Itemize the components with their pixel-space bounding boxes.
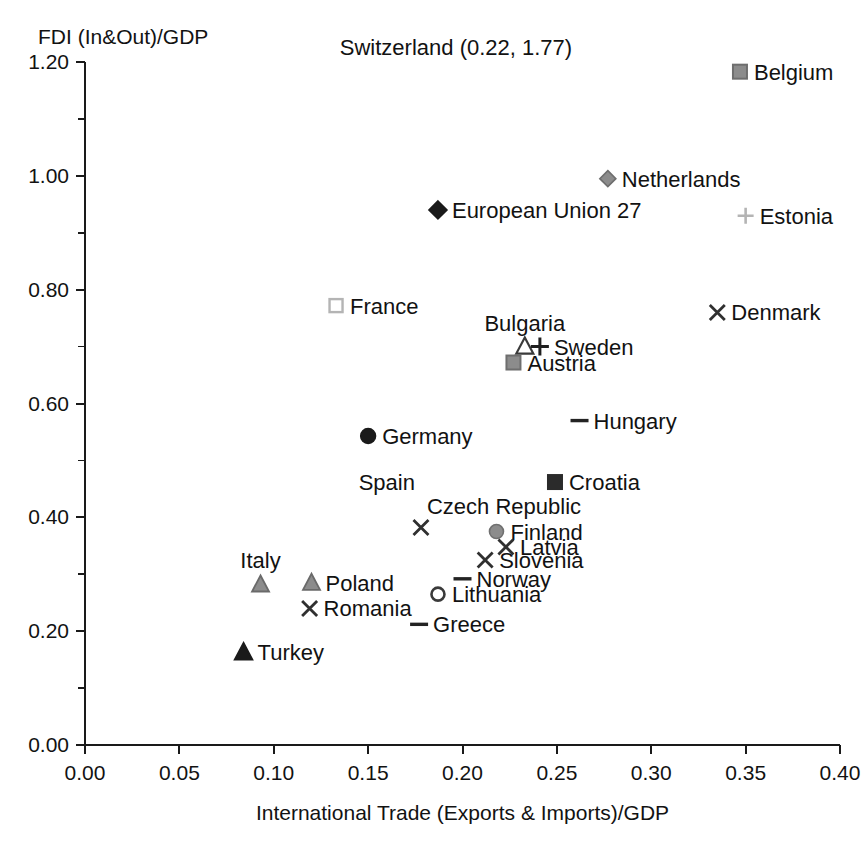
point-label: Austria [527, 351, 596, 376]
x-tick-label: 0.10 [253, 761, 294, 784]
data-point: Italy [240, 548, 280, 591]
marker-square-gray [733, 65, 747, 79]
data-points: BelgiumNetherlandsEuropean Union 27Eston… [235, 60, 834, 666]
point-label: Hungary [594, 409, 677, 434]
annotation-switzerland: Switzerland (0.22, 1.77) [340, 35, 572, 60]
marker-square-gray [506, 356, 520, 370]
marker-square-dark [548, 475, 562, 489]
y-axis-title: FDI (In&Out)/GDP [38, 25, 208, 48]
data-point: Denmark [710, 300, 822, 325]
data-point: Germany [361, 424, 473, 449]
marker-triangle-gray [303, 574, 320, 590]
data-point: Lithuania [431, 582, 542, 607]
point-label: Spain [359, 470, 415, 495]
point-label: Estonia [760, 204, 834, 229]
y-tick-label: 1.00 [28, 164, 69, 187]
axis-frame [85, 62, 840, 745]
y-tick-label: 0.00 [28, 733, 69, 756]
point-label: Czech Republic [427, 494, 581, 519]
marker-circle-gray [489, 525, 503, 539]
marker-triangle-black [235, 643, 253, 660]
data-point: Romania [302, 596, 412, 621]
data-point: Estonia [738, 204, 834, 229]
data-point: Spain [359, 470, 415, 495]
point-label: Romania [324, 596, 413, 621]
x-axis-title: International Trade (Exports & Imports)/… [256, 801, 669, 824]
x-tick-label: 0.05 [159, 761, 200, 784]
x-tick-label: 0.30 [631, 761, 672, 784]
marker-circle-hollow [431, 588, 444, 601]
scatter-chart: 0.000.200.400.600.801.001.200.000.050.10… [0, 0, 865, 857]
data-point: European Union 27 [429, 198, 642, 223]
point-label: Italy [240, 548, 280, 573]
x-tick-label: 0.25 [536, 761, 577, 784]
x-tick-label: 0.40 [820, 761, 861, 784]
point-label: Bulgaria [484, 311, 565, 336]
point-label: European Union 27 [452, 198, 642, 223]
x-tick-label: 0.35 [725, 761, 766, 784]
marker-plus-gray [738, 208, 754, 224]
axes [85, 62, 840, 745]
point-label: Poland [326, 571, 395, 596]
point-label: Greece [433, 612, 505, 637]
data-point: Poland [303, 571, 394, 596]
y-tick-label: 0.60 [28, 392, 69, 415]
axis-titles: FDI (In&Out)/GDPInternational Trade (Exp… [38, 25, 669, 824]
y-tick-label: 1.20 [28, 50, 69, 73]
chart-annotations: Switzerland (0.22, 1.77) [340, 35, 572, 60]
plot-canvas: 0.000.200.400.600.801.001.200.000.050.10… [0, 0, 865, 857]
data-point: France [330, 294, 419, 319]
point-label: Croatia [569, 470, 641, 495]
marker-diamond-black [429, 201, 447, 219]
marker-diamond-gray [600, 171, 616, 187]
marker-square-hollow [330, 299, 343, 312]
marker-circle-black [361, 428, 376, 443]
marker-x [478, 553, 493, 568]
point-label: Netherlands [622, 167, 741, 192]
y-tick-label: 0.20 [28, 619, 69, 642]
marker-x [710, 305, 725, 320]
axis-tick-labels: 0.000.200.400.600.801.001.200.000.050.10… [28, 50, 860, 784]
data-point: Turkey [235, 640, 324, 665]
marker-triangle-gray [252, 575, 269, 591]
y-tick-label: 0.80 [28, 278, 69, 301]
point-label: Germany [382, 424, 472, 449]
point-label: Denmark [731, 300, 821, 325]
data-point: Hungary [571, 409, 677, 434]
x-tick-label: 0.15 [348, 761, 389, 784]
marker-x [413, 520, 428, 535]
point-label: Lithuania [452, 582, 542, 607]
data-point: Belgium [733, 60, 833, 85]
data-point: Greece [410, 612, 505, 637]
marker-x [302, 601, 317, 616]
x-tick-label: 0.20 [442, 761, 483, 784]
point-label: Belgium [754, 60, 833, 85]
y-tick-label: 0.40 [28, 505, 69, 528]
data-point: Croatia [548, 470, 641, 495]
point-label: Turkey [258, 640, 324, 665]
point-label: France [350, 294, 418, 319]
data-point: Netherlands [600, 167, 741, 192]
x-tick-label: 0.00 [65, 761, 106, 784]
